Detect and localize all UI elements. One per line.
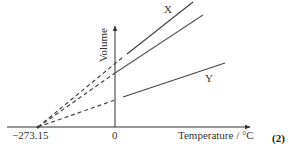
line-x-dashed (38, 57, 123, 127)
chart-canvas (0, 0, 289, 147)
x-tick-zero: 0 (112, 129, 118, 141)
marks-label: (2) (272, 132, 285, 144)
line-middle-solid (115, 15, 203, 73)
series-label-x: X (164, 3, 172, 15)
line-middle-dashed (38, 73, 115, 127)
series-label-y: Y (205, 72, 213, 84)
x-tick-absolute-zero: −273.15 (12, 129, 48, 141)
y-axis-label: Volume (97, 28, 109, 62)
line-y-dashed (38, 100, 115, 127)
x-axis-label: Temperature / °C (178, 129, 254, 141)
